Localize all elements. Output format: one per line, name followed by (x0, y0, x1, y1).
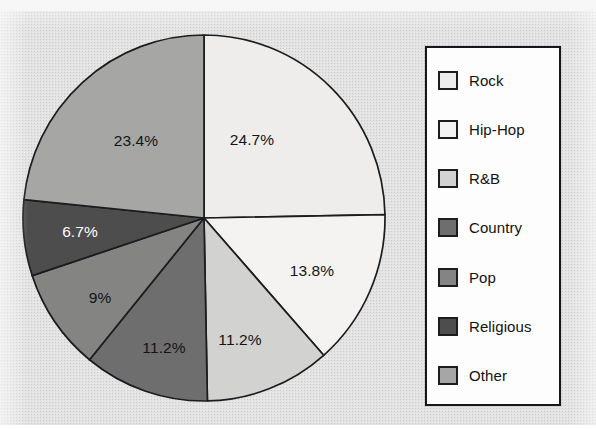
legend-item-r-b[interactable]: R&B (438, 164, 558, 194)
legend-swatch-pop (438, 268, 458, 287)
legend-label-other: Other (469, 367, 507, 384)
pie-slice-other (24, 35, 204, 218)
legend-swatch-other (438, 366, 458, 385)
legend-item-religious[interactable]: Religious (438, 311, 558, 341)
legend-item-rock[interactable]: Rock (438, 66, 558, 96)
pie-slice-rock (204, 35, 385, 218)
pie-slice-label-pop: 9% (89, 289, 112, 307)
legend-swatch-r-b (438, 169, 458, 188)
legend-label-rock: Rock (469, 72, 504, 89)
legend-item-pop[interactable]: Pop (438, 262, 558, 292)
pie-slice-label-other: 23.4% (114, 132, 158, 150)
pie-slice-label-religious: 6.7% (62, 223, 98, 241)
pie-slice-label-rock: 24.7% (230, 131, 274, 149)
legend-list: RockHip-HopR&BCountryPopReligiousOther (438, 56, 558, 400)
legend-label-hip-hop: Hip-Hop (469, 121, 525, 138)
legend-swatch-religious (438, 317, 458, 336)
legend-label-religious: Religious (469, 318, 532, 335)
legend-swatch-rock (438, 71, 458, 90)
legend-swatch-hip-hop (438, 120, 458, 139)
legend-swatch-country (438, 218, 458, 237)
pie-slice-label-r-b: 11.2% (218, 331, 261, 349)
legend-item-other[interactable]: Other (438, 360, 558, 390)
pie-slice-label-hip-hop: 13.8% (290, 262, 334, 280)
legend-label-country: Country (469, 219, 522, 236)
legend-label-pop: Pop (469, 269, 496, 286)
legend-label-r-b: R&B (469, 170, 500, 187)
chart-page: 24.7%13.8%11.2%11.2%9%6.7%23.4% RockHip-… (0, 0, 596, 429)
legend-box: RockHip-HopR&BCountryPopReligiousOther (425, 46, 561, 406)
pie-slice-group (23, 35, 385, 401)
pie-slice-label-country: 11.2% (142, 339, 185, 357)
legend-item-hip-hop[interactable]: Hip-Hop (438, 115, 558, 145)
legend-item-country[interactable]: Country (438, 213, 558, 243)
